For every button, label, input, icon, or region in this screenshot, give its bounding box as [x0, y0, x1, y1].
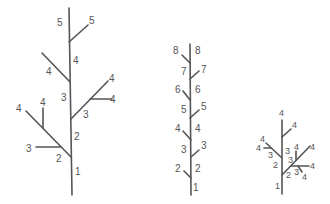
tree-2-label: 1 — [193, 182, 199, 193]
tree-3-label: 4 — [256, 143, 261, 153]
tree-2-branch-left-6 — [183, 91, 190, 100]
tree-2-label: 3 — [201, 140, 207, 151]
tree-3-label: 2 — [273, 160, 278, 170]
tree-2-label: 7 — [181, 66, 187, 77]
tree-2-label: 5 — [201, 101, 207, 112]
tree-3-branch-top-right — [282, 129, 291, 137]
tree-3-label: 4 — [302, 172, 307, 182]
tree-2-label: 4 — [195, 123, 201, 134]
tree-1-label: 4 — [73, 55, 79, 66]
tree-1-label: 5 — [89, 15, 95, 26]
tree-1-trunk — [69, 8, 72, 195]
tree-1-label: 4 — [40, 97, 46, 108]
tree-2-label: 5 — [181, 104, 187, 115]
tree-3-label: 3 — [294, 167, 299, 177]
tree-3-label: 4 — [279, 108, 284, 118]
tree-2-branch-right-5 — [190, 110, 199, 118]
tree-2-label: 7 — [201, 64, 207, 75]
tree-2-label: 8 — [173, 45, 179, 56]
tree-2-label: 6 — [175, 84, 181, 95]
tree-diagram-canvas: 1 2 3 4 5 2 3 4 4 3 4 4 4 5 1 2 2 3 3 4 … — [0, 0, 330, 204]
tree-1-branch-right-mid — [71, 81, 108, 119]
tree-1: 1 2 3 4 5 2 3 4 4 3 4 4 4 5 — [16, 8, 116, 195]
tree-1-branch-right-top — [69, 25, 88, 42]
tree-2: 1 2 2 3 3 4 4 5 5 6 6 7 7 8 8 — [173, 44, 207, 195]
tree-1-label: 4 — [110, 94, 116, 105]
tree-2-label: 6 — [195, 84, 201, 95]
tree-2-branch-left-8 — [182, 55, 190, 63]
tree-3-label: 4 — [292, 120, 297, 130]
tree-2-branch-right-7 — [190, 71, 199, 79]
tree-2-trunk — [190, 44, 191, 195]
tree-1-label: 3 — [83, 109, 89, 120]
tree-1-branch-left-low — [26, 111, 71, 157]
tree-3: 1 2 3 4 4 3 4 4 2 3 3 4 4 4 4 — [256, 108, 315, 194]
tree-2-label: 4 — [175, 123, 181, 134]
tree-1-label: 4 — [16, 103, 22, 114]
tree-1-label: 3 — [26, 143, 32, 154]
tree-2-branch-right-3 — [191, 150, 199, 157]
tree-1-label: 4 — [109, 73, 115, 84]
tree-1-label: 5 — [57, 17, 63, 28]
tree-1-label: 1 — [75, 166, 81, 177]
tree-1-label: 4 — [46, 66, 52, 77]
tree-3-label: 4 — [310, 142, 315, 152]
tree-2-label: 2 — [195, 163, 201, 174]
tree-3-label: 2 — [286, 170, 291, 180]
tree-3-label: 3 — [268, 150, 273, 160]
tree-3-label: 4 — [310, 161, 315, 171]
tree-1-label: 2 — [74, 131, 80, 142]
tree-1-label: 2 — [56, 153, 62, 164]
tree-3-label: 3 — [288, 155, 293, 165]
tree-1-label: 3 — [61, 92, 67, 103]
tree-2-label: 3 — [181, 144, 187, 155]
tree-2-branch-left-2 — [184, 171, 191, 178]
tree-3-label: 4 — [294, 142, 299, 152]
tree-2-label: 8 — [195, 45, 201, 56]
tree-3-label: 1 — [275, 181, 280, 191]
tree-2-label: 2 — [175, 163, 181, 174]
